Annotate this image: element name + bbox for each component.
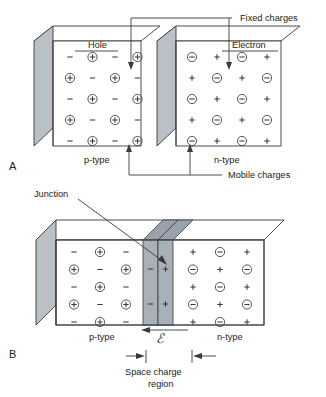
label-mobile-charges: Mobile charges [228,170,291,180]
label-electron: Electron [232,40,266,50]
n-block-top-face [157,26,300,41]
panel-letter-a: A [9,160,17,172]
label-p-type-a: p-type [84,155,110,165]
label-region: region [148,379,174,389]
label-hole: Hole [88,40,107,50]
depletion-front-left [143,240,158,325]
depletion-front-right [158,240,173,325]
label-space-charge: Space charge [125,367,182,377]
p-block-left-face [34,26,53,146]
label-electric-field: ℰ [156,331,165,346]
panel-a-n-block [157,26,300,146]
label-n-type-a: n-type [214,155,240,165]
n-block-left-face [157,26,176,146]
label-junction: Junction [34,189,68,199]
panel-letter-b: B [9,348,16,360]
label-p-type-b: p-type [89,332,115,342]
label-n-type-b: n-type [217,332,243,342]
label-fixed-charges: Fixed charges [240,13,298,23]
pn-junction-figure: Fixed charges Mobile charges Hole Electr… [0,0,326,397]
